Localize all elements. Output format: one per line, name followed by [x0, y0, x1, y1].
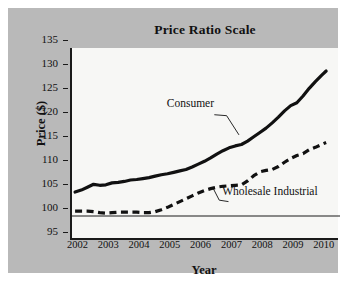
- y-tick-label: 120: [28, 105, 58, 117]
- y-tick-mark: [63, 64, 68, 65]
- series-annotation-wholesale-industrial: Wholesale Industrial: [222, 185, 317, 197]
- series-line-wholesale-industrial: [75, 143, 326, 214]
- y-tick-mark: [63, 112, 68, 113]
- x-axis-label: Year: [70, 263, 338, 278]
- plot-area: [70, 48, 338, 240]
- y-tick-label: 125: [28, 81, 58, 93]
- y-tick-label: 105: [28, 177, 58, 189]
- y-tick-label: 100: [28, 201, 58, 213]
- series-line-consumer: [75, 71, 326, 192]
- y-tick-label: 115: [28, 129, 58, 141]
- y-tick-label: 135: [28, 33, 58, 45]
- chart-panel: Price Ratio Scale Price ($) Year 1351301…: [8, 8, 338, 273]
- y-tick-label: 110: [28, 153, 58, 165]
- series-annotation-consumer: Consumer: [167, 97, 214, 109]
- y-tick-mark: [63, 232, 68, 233]
- y-tick-mark: [63, 184, 68, 185]
- x-tick-label: 2010: [304, 239, 344, 250]
- y-tick-mark: [63, 136, 68, 137]
- figure-container: Price Ratio Scale Price ($) Year 1351301…: [0, 0, 346, 283]
- chart-title: Price Ratio Scale: [70, 22, 340, 38]
- leader-line-consumer: [214, 115, 239, 135]
- y-tick-mark: [63, 208, 68, 209]
- plot-svg: [72, 48, 340, 240]
- y-tick-mark: [63, 88, 68, 89]
- y-tick-label: 130: [28, 57, 58, 69]
- y-tick-mark: [63, 40, 68, 41]
- y-tick-mark: [63, 160, 68, 161]
- y-tick-label: 95: [28, 225, 58, 237]
